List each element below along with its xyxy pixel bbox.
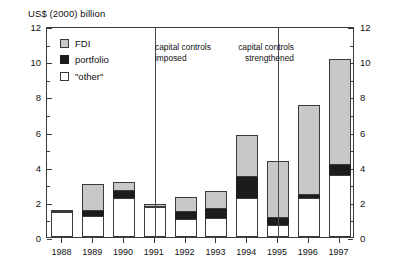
- y-axis-major-tick: [348, 239, 353, 240]
- bar-segment-fdi: [82, 184, 104, 210]
- annotation-capital-controls-strengthened: capital controls strengthened: [222, 42, 294, 63]
- bar-segment-fdi: [175, 197, 197, 213]
- x-axis-label-1997: 1997: [319, 247, 359, 257]
- bar-1996: [298, 26, 320, 237]
- bar-segment-other: [175, 219, 197, 237]
- bar-segment-portfolio: [329, 165, 351, 176]
- y-axis-minor-tick: [47, 81, 50, 82]
- y-axis-right-tick-label: 12: [360, 22, 382, 33]
- x-axis-tick: [246, 238, 247, 243]
- bar-segment-other: [298, 198, 320, 237]
- legend-item-portfolio: portfolio: [60, 53, 109, 67]
- y-axis-minor-tick: [47, 151, 50, 152]
- bar-segment-portfolio: [175, 212, 197, 219]
- bar-1997: [329, 26, 351, 237]
- x-axis-tick: [92, 238, 93, 243]
- bar-segment-portfolio: [205, 209, 227, 218]
- y-axis-unit-label: US$ (2000) billion: [28, 8, 105, 19]
- bar-segment-portfolio: [113, 191, 135, 198]
- annotation-capital-controls-imposed: capital controls imposed: [155, 42, 211, 63]
- y-axis-right-tick-label: 0: [360, 233, 382, 244]
- x-axis-tick: [123, 238, 124, 243]
- chart-container: US$ (2000) billion 024681012 024681012 1…: [0, 0, 403, 278]
- y-axis-left-tick-label: 0: [19, 233, 41, 244]
- bar-segment-portfolio: [236, 177, 258, 198]
- bar-segment-fdi: [298, 105, 320, 195]
- bar-segment-fdi: [236, 135, 258, 177]
- legend-item-other: "other": [60, 69, 109, 83]
- y-axis-left-tick-label: 8: [19, 92, 41, 103]
- legend: FDIportfolio"other": [60, 36, 109, 86]
- y-axis-right-tick-label: 10: [360, 57, 382, 68]
- y-axis-right-tick-label: 4: [360, 163, 382, 174]
- y-axis-left-tick-label: 12: [19, 22, 41, 33]
- legend-label-other: "other": [75, 71, 103, 82]
- y-axis-left-tick-label: 10: [19, 57, 41, 68]
- x-axis-tick: [154, 238, 155, 243]
- bar-segment-fdi: [113, 182, 135, 191]
- bar-segment-other: [236, 198, 258, 237]
- bar-1990: [113, 26, 135, 237]
- y-axis-right-tick-label: 2: [360, 198, 382, 209]
- x-axis-tick: [277, 238, 278, 243]
- legend-swatch-other-icon: [60, 72, 69, 81]
- bar-segment-portfolio: [82, 211, 104, 216]
- bar-segment-other: [51, 212, 73, 237]
- y-axis-left-tick-label: 4: [19, 163, 41, 174]
- y-axis-minor-tick: [47, 116, 50, 117]
- bar-segment-other: [82, 216, 104, 237]
- bar-segment-fdi: [329, 59, 351, 165]
- y-axis-right-tick-label: 6: [360, 128, 382, 139]
- y-axis-minor-tick: [47, 186, 50, 187]
- bar-segment-other: [205, 218, 227, 237]
- legend-label-fdi: FDI: [75, 38, 90, 49]
- legend-swatch-fdi-icon: [60, 39, 69, 48]
- x-axis-tick: [185, 238, 186, 243]
- x-axis-tick: [339, 238, 340, 243]
- bar-segment-other: [113, 198, 135, 237]
- y-axis-minor-tick: [47, 221, 50, 222]
- bar-segment-fdi: [205, 191, 227, 209]
- y-axis-left-tick-label: 2: [19, 198, 41, 209]
- y-axis-major-tick: [47, 239, 52, 240]
- y-axis-left-tick-label: 6: [19, 128, 41, 139]
- legend-label-portfolio: portfolio: [75, 54, 109, 65]
- y-axis-minor-tick: [47, 46, 50, 47]
- bar-segment-fdi: [51, 210, 73, 213]
- legend-swatch-portfolio-icon: [60, 55, 69, 64]
- legend-item-fdi: FDI: [60, 36, 109, 50]
- x-axis-tick: [308, 238, 309, 243]
- x-axis-tick: [61, 238, 62, 243]
- bar-segment-other: [329, 175, 351, 237]
- x-axis-tick: [215, 238, 216, 243]
- y-axis-right-tick-label: 8: [360, 92, 382, 103]
- bar-segment-portfolio: [298, 195, 320, 199]
